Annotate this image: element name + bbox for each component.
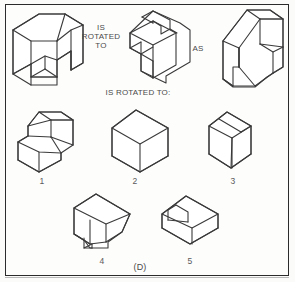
page-bottom-rule <box>5 277 289 278</box>
connector-is-rotated-to-colon: IS ROTATED TO: <box>78 88 198 97</box>
connector-as: AS <box>186 44 210 53</box>
test-item-page: IS ROTATED TO AS <box>0 0 295 282</box>
option-5-label: 5 <box>183 257 197 266</box>
option-2-label: 2 <box>128 177 142 186</box>
stimulus-c-figure <box>217 7 289 91</box>
option-5-figure[interactable] <box>158 194 222 250</box>
option-3-label: 3 <box>226 177 240 186</box>
answer-key-label: (D) <box>125 263 155 272</box>
option-2-figure[interactable] <box>106 108 172 174</box>
option-4-figure[interactable] <box>68 192 136 254</box>
option-4-label: 4 <box>95 257 109 266</box>
option-1-label: 1 <box>35 177 49 186</box>
option-3-figure[interactable] <box>205 110 261 174</box>
option-1-figure[interactable] <box>15 110 83 174</box>
stimulus-b-figure <box>129 9 191 85</box>
connector-is-rotated-to: IS ROTATED TO <box>76 23 126 50</box>
